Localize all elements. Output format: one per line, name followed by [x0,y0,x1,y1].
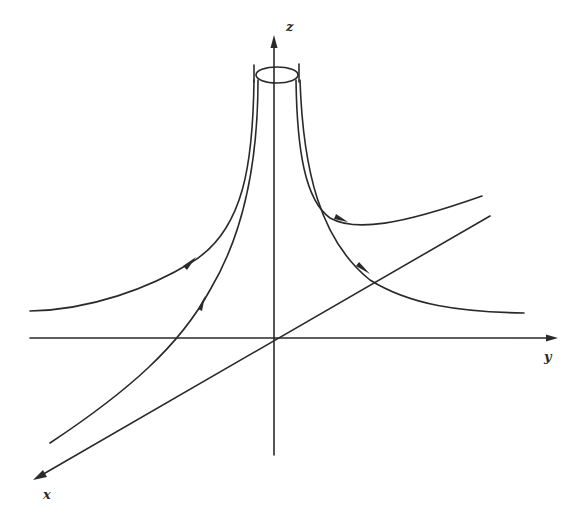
tube [254,64,299,83]
trajectory-right-lower [300,80,524,313]
trajectory-arrow-icon [183,257,196,270]
trajectory-right-upper [296,80,482,225]
x-axis [33,216,490,480]
y-axis-label: y [544,350,552,363]
trajectory-arrow-icon [356,262,370,274]
z-axis [271,35,278,455]
x-axis-label: x [43,488,51,501]
trajectory-left-outer [30,80,254,311]
z-axis-label: z [286,20,293,33]
trajectory-arrow-icon [198,296,205,311]
trajectory-left-inner [50,80,258,443]
z-axis-arrow-icon [271,35,278,48]
y-axis [30,335,558,342]
diagram-figure: z y x [0,0,580,522]
y-axis-arrow-icon [546,335,558,342]
x-axis-arrow-icon [33,470,47,480]
